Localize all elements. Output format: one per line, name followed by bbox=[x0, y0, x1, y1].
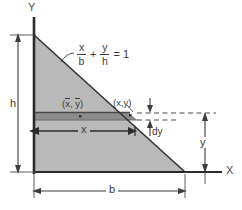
hypotenuse-equation: x b + y h = 1 bbox=[76, 42, 129, 66]
strip-width-label: x bbox=[78, 124, 90, 135]
equation-plus-sign: + bbox=[90, 49, 96, 60]
y-dimension-group bbox=[202, 112, 208, 184]
equation-fraction-y-over-h: y h bbox=[100, 42, 109, 66]
equation-term2-numerator: y bbox=[101, 42, 108, 54]
centroid-marker bbox=[79, 115, 82, 118]
centroid-close-paren: ) bbox=[80, 98, 83, 109]
boundary-point-label: (x,y) bbox=[113, 98, 131, 108]
equation-term2-denominator: h bbox=[101, 55, 109, 67]
equation-term1-denominator: b bbox=[78, 55, 86, 67]
equation-equals-sign: = bbox=[113, 49, 119, 60]
equation-term1-numerator: x bbox=[78, 42, 85, 54]
height-arrow-up bbox=[15, 33, 21, 42]
equation-right-hand-side: 1 bbox=[123, 49, 129, 60]
strip-elevation-label: y bbox=[198, 137, 208, 148]
equation-fraction-x-over-b: x b bbox=[77, 42, 86, 66]
centroid-point-label: (x, y) bbox=[62, 98, 83, 109]
boundary-point-marker bbox=[129, 114, 132, 117]
base-arrow-left bbox=[32, 188, 41, 194]
centroid-x-bar: x bbox=[65, 98, 70, 109]
x-axis-label: X bbox=[226, 165, 233, 176]
base-arrow-right bbox=[178, 188, 187, 194]
differential-thickness-label: dy bbox=[152, 127, 163, 137]
dy-arrow-top-head bbox=[147, 105, 153, 113]
base-dimension-label: b bbox=[106, 184, 118, 195]
triangle-area-diagram: Y X x b + y h = 1 h b x y dy (x, y) (x,y… bbox=[0, 0, 242, 210]
y-axis-label: Y bbox=[28, 2, 35, 13]
centroid-y-bar: y bbox=[75, 98, 80, 109]
height-arrow-down bbox=[15, 165, 21, 174]
height-dimension-label: h bbox=[10, 98, 16, 109]
